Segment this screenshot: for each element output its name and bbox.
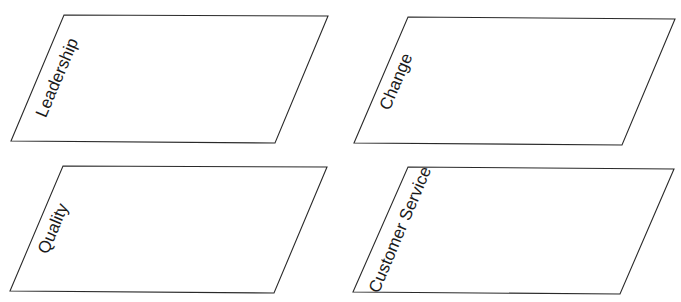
panel-change: Change — [354, 17, 675, 145]
panel-leadership: Leadership — [11, 15, 328, 143]
diagram-canvas: Leadership Change Quality Customer Servi… — [0, 0, 681, 302]
panel-quality: Quality — [10, 166, 327, 293]
panel-customer-service: Customer Service — [353, 164, 674, 296]
